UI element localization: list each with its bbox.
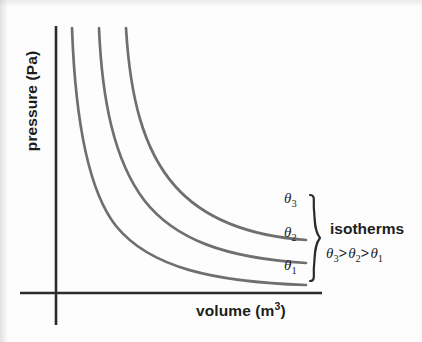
x-axis-label-text: volume (m [196,302,274,319]
theta-subscript: 1 [291,265,296,276]
x-axis-label: volume (m3) [196,302,286,320]
x-axis-label-close: ) [280,302,285,319]
ordering-theta1-symbol: θ [370,245,377,261]
ordering-operator-1: > [339,245,347,261]
ordering-theta1-subscript: 1 [378,253,383,264]
curve-label-theta3: θ3 [284,190,297,207]
theta-subscript: 3 [291,198,296,209]
legend-brace [310,195,320,281]
curve-label-theta2: θ2 [284,224,297,241]
isotherm-curve-theta3 [126,28,306,240]
isotherm-figure: pressure (Pa) volume (m3) θ3 θ2 θ1 isoth… [0,0,422,342]
legend-title: isotherms [330,220,404,238]
y-axis-label: pressure (Pa) [23,41,41,161]
curve-label-theta1: θ1 [284,257,297,274]
plot-area [0,0,422,342]
theta-subscript: 2 [291,232,296,243]
legend-ordering: θ3> θ2> θ1 [326,245,383,262]
ordering-operator-2: > [361,245,369,261]
ordering-theta2-symbol: θ [348,245,355,261]
isotherm-curve-theta1 [72,28,306,285]
